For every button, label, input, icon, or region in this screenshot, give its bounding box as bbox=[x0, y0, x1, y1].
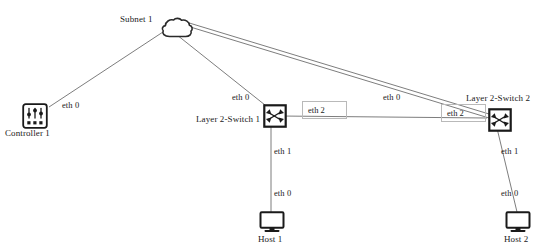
port-box-eth2-left[interactable]: eth 2 bbox=[302, 101, 347, 119]
node-label-subnet-1: Subnet 1 bbox=[120, 14, 153, 25]
port-box-eth2-right-text: eth 2 bbox=[447, 108, 464, 118]
link-subnet-controller[interactable] bbox=[49, 30, 166, 107]
switch-icon bbox=[488, 108, 512, 132]
port-box-eth2-right[interactable]: eth 2 bbox=[441, 104, 486, 122]
node-label-layer2-switch-2: Layer 2-Switch 2 bbox=[466, 93, 530, 104]
switch-icon bbox=[263, 104, 287, 128]
port-box-eth2-left-text: eth 2 bbox=[308, 105, 325, 115]
cloud-icon bbox=[160, 17, 194, 39]
controller-icon bbox=[22, 103, 48, 129]
network-diagram-canvas: Subnet 1 Controller 1 bbox=[0, 0, 546, 247]
host-icon bbox=[505, 211, 531, 233]
link-switch2-host2[interactable] bbox=[496, 124, 517, 212]
port-label-eth0-host2: eth 0 bbox=[501, 188, 518, 198]
port-label-eth0-switch1: eth 0 bbox=[232, 92, 249, 102]
port-label-eth1-switch1: eth 1 bbox=[274, 146, 291, 156]
port-label-eth0-controller: eth 0 bbox=[62, 100, 79, 110]
node-label-controller-1: Controller 1 bbox=[5, 128, 50, 139]
port-label-eth0-host1: eth 0 bbox=[274, 188, 291, 198]
host-icon bbox=[259, 211, 285, 233]
port-label-eth1-switch2: eth 1 bbox=[501, 146, 518, 156]
port-label-eth0-switch2: eth 0 bbox=[383, 92, 400, 102]
node-label-host-1: Host 1 bbox=[258, 234, 282, 245]
node-label-host-2: Host 2 bbox=[504, 234, 528, 245]
node-label-layer2-switch-1: Layer 2-Switch 1 bbox=[196, 114, 260, 125]
